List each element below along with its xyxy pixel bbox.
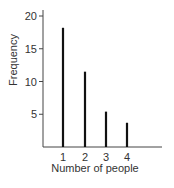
bar-chart: 5101520 1234 Frequency Number of people [0, 0, 174, 188]
y-ticks: 5101520 [25, 10, 43, 120]
bars [63, 28, 127, 147]
y-tick-label: 15 [25, 43, 37, 55]
x-axis-label: Number of people [51, 162, 138, 174]
y-tick-label: 10 [25, 76, 37, 88]
y-axis-label: Frequency [7, 34, 19, 86]
y-tick-label: 20 [25, 10, 37, 22]
y-tick-label: 5 [31, 108, 37, 120]
